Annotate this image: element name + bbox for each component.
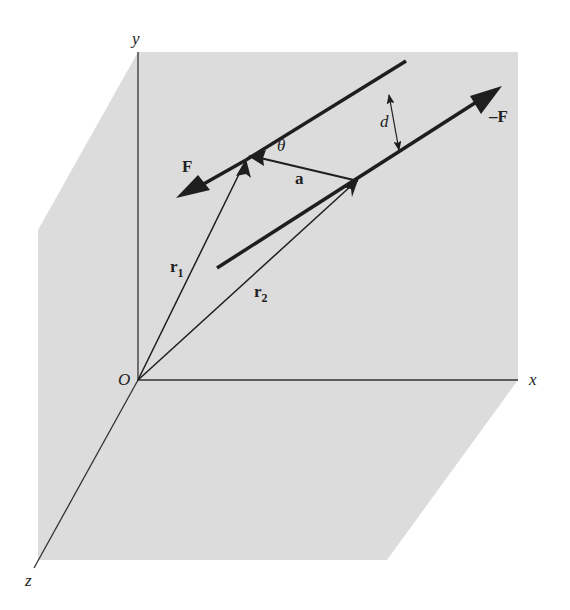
z-axis-label: z <box>24 571 32 590</box>
force-F-label: F <box>182 157 192 176</box>
plane-background <box>38 52 518 560</box>
x-axis-label: x <box>528 370 537 389</box>
neg-force-F-label: –F <box>488 107 508 126</box>
couple-diagram: y x z O F –F r1 r2 a θ d <box>0 0 570 610</box>
origin-label: O <box>118 370 130 389</box>
y-axis-label: y <box>130 29 140 48</box>
distance-d-label: d <box>380 112 389 131</box>
theta-angle-label: θ <box>277 136 285 155</box>
a-vector-label: a <box>295 169 304 188</box>
